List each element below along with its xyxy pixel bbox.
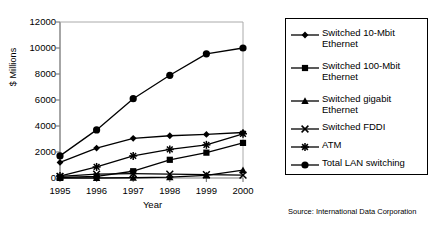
chart-legend: Switched 10-Mbit EthernetSwitched 100-Mb…: [285, 18, 428, 175]
x-axis-tick-label: 1996: [77, 185, 117, 196]
legend-item[interactable]: Switched gigabit Ethernet: [286, 93, 427, 115]
legend-item[interactable]: Switched FDDI: [286, 121, 427, 136]
data-point-marker-diamond: [166, 132, 173, 139]
chart-plot-area: $ Millions 020004000600080001000012000 1…: [0, 0, 250, 215]
legend-label: Switched FDDI: [320, 121, 385, 132]
data-point-marker-square: [240, 140, 246, 146]
legend-label: Switched 100-Mbit Ethernet: [320, 60, 400, 82]
legend-item[interactable]: Switched 10-Mbit Ethernet: [286, 27, 427, 49]
source-attribution: Source: International Data Corporation: [288, 207, 416, 216]
legend-marker-star-icon: [290, 140, 320, 154]
data-point-marker-circle: [166, 72, 173, 79]
data-point-marker-square: [203, 150, 209, 156]
data-point-marker-circle: [56, 152, 63, 159]
data-point-marker-circle: [93, 126, 100, 133]
legend-marker-diamond-icon: [290, 28, 320, 42]
data-point-marker-star: [166, 145, 174, 153]
data-point-marker-circle: [301, 161, 308, 168]
data-point-marker-diamond: [93, 145, 100, 152]
legend-label: Switched 10-Mbit Ethernet: [320, 27, 395, 49]
legend-item[interactable]: Total LAN switching: [286, 157, 427, 172]
data-point-marker-diamond: [130, 135, 137, 142]
legend-label: ATM: [320, 139, 341, 150]
plot-svg: [0, 0, 250, 200]
legend-marker-cross-icon: [290, 122, 320, 136]
data-point-marker-star: [56, 172, 64, 180]
data-point-marker-star: [93, 163, 101, 171]
legend-item[interactable]: ATM: [286, 139, 427, 154]
legend-label: Total LAN switching: [320, 157, 405, 168]
x-axis-tick-label: 1997: [113, 185, 153, 196]
data-point-marker-star: [301, 143, 309, 151]
data-point-marker-diamond: [203, 131, 210, 138]
data-point-marker-circle: [239, 44, 246, 51]
data-point-marker-diamond: [57, 159, 64, 166]
legend-marker-triangle-icon: [290, 94, 320, 108]
chart-figure: $ Millions 020004000600080001000012000 1…: [0, 0, 435, 231]
x-axis-tick-label: 2000: [223, 185, 263, 196]
data-point-marker-square: [302, 65, 308, 71]
data-point-marker-square: [167, 157, 173, 163]
series-5: [56, 44, 246, 159]
x-axis-tick-label: 1998: [150, 185, 190, 196]
x-axis-tick-label: 1999: [186, 185, 226, 196]
data-point-marker-star: [202, 141, 210, 149]
data-point-marker-circle: [130, 95, 137, 102]
series-0: [57, 129, 247, 166]
data-point-marker-star: [239, 130, 247, 138]
data-point-marker-diamond: [302, 32, 309, 39]
data-point-marker-star: [129, 152, 137, 160]
data-point-marker-circle: [203, 50, 210, 57]
legend-label: Switched gigabit Ethernet: [320, 93, 391, 115]
legend-item[interactable]: Switched 100-Mbit Ethernet: [286, 60, 427, 82]
x-axis-tick-label: 1995: [40, 185, 80, 196]
legend-marker-circle-icon: [290, 158, 320, 172]
legend-marker-square-icon: [290, 61, 320, 75]
x-axis-title: Year: [60, 199, 245, 210]
